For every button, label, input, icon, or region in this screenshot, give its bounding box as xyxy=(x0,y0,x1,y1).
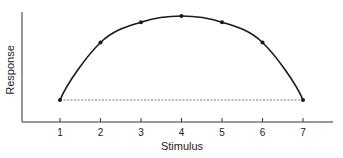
data-point xyxy=(139,20,143,24)
data-point xyxy=(180,14,184,18)
data-point xyxy=(220,20,224,24)
plot-area: 1234567 Stimulus Response xyxy=(0,0,343,158)
data-point xyxy=(99,41,103,45)
x-tick-label: 3 xyxy=(138,127,144,138)
data-point xyxy=(261,41,265,45)
x-tick-label: 5 xyxy=(219,127,225,138)
y-axis-title: Response xyxy=(4,45,16,95)
x-axis-ticks: 1234567 xyxy=(57,118,306,138)
x-tick-label: 7 xyxy=(300,127,306,138)
x-axis-title: Stimulus xyxy=(161,140,204,152)
curve-path xyxy=(60,16,303,100)
data-points xyxy=(58,14,305,102)
data-point xyxy=(301,98,305,102)
x-tick-label: 6 xyxy=(260,127,266,138)
x-tick-label: 2 xyxy=(98,127,104,138)
chart-container: 1234567 Stimulus Response xyxy=(0,0,343,158)
x-tick-label: 1 xyxy=(57,127,63,138)
data-point xyxy=(58,98,62,102)
x-tick-label: 4 xyxy=(179,127,185,138)
axes xyxy=(22,12,333,122)
response-curve xyxy=(60,16,303,100)
